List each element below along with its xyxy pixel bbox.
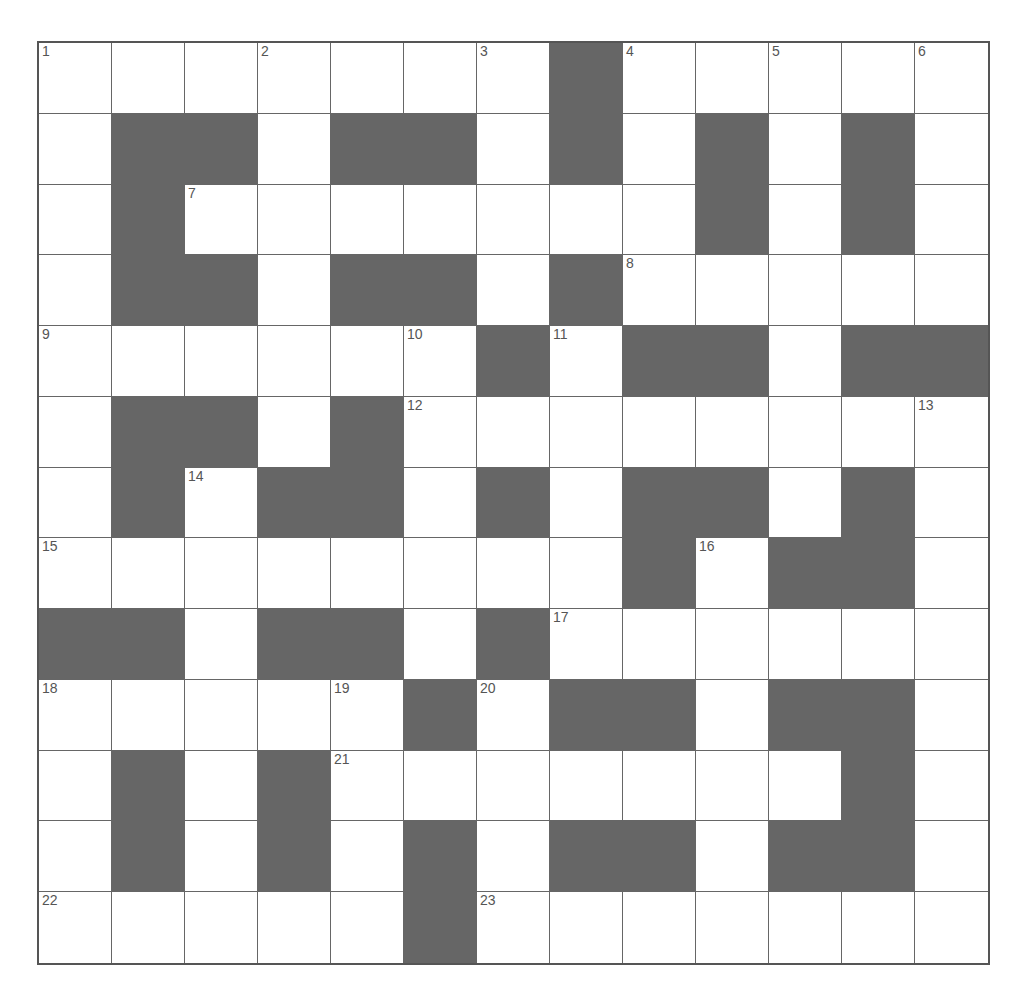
answer-cell[interactable] (842, 892, 915, 963)
answer-cell[interactable]: 19 (331, 680, 404, 751)
answer-cell[interactable] (258, 255, 331, 326)
answer-cell[interactable] (258, 185, 331, 256)
answer-cell[interactable]: 1 (39, 43, 112, 114)
answer-cell[interactable] (769, 255, 842, 326)
answer-cell[interactable]: 21 (331, 751, 404, 822)
answer-cell[interactable] (258, 397, 331, 468)
answer-cell[interactable] (769, 326, 842, 397)
answer-cell[interactable] (696, 892, 769, 963)
answer-cell[interactable] (769, 751, 842, 822)
answer-cell[interactable] (550, 892, 623, 963)
answer-cell[interactable] (39, 821, 112, 892)
answer-cell[interactable] (842, 609, 915, 680)
answer-cell[interactable] (769, 892, 842, 963)
answer-cell[interactable] (112, 680, 185, 751)
answer-cell[interactable] (185, 43, 258, 114)
answer-cell[interactable] (39, 468, 112, 539)
answer-cell[interactable] (404, 538, 477, 609)
answer-cell[interactable]: 8 (623, 255, 696, 326)
answer-cell[interactable] (258, 114, 331, 185)
answer-cell[interactable] (404, 185, 477, 256)
answer-cell[interactable]: 10 (404, 326, 477, 397)
answer-cell[interactable] (623, 751, 696, 822)
answer-cell[interactable] (769, 397, 842, 468)
answer-cell[interactable] (112, 43, 185, 114)
answer-cell[interactable] (915, 751, 988, 822)
answer-cell[interactable] (696, 751, 769, 822)
answer-cell[interactable] (404, 609, 477, 680)
answer-cell[interactable] (112, 892, 185, 963)
answer-cell[interactable] (477, 114, 550, 185)
answer-cell[interactable] (842, 397, 915, 468)
answer-cell[interactable] (769, 609, 842, 680)
answer-cell[interactable] (39, 397, 112, 468)
answer-cell[interactable]: 17 (550, 609, 623, 680)
answer-cell[interactable] (404, 468, 477, 539)
answer-cell[interactable] (550, 538, 623, 609)
answer-cell[interactable] (185, 680, 258, 751)
answer-cell[interactable] (331, 185, 404, 256)
answer-cell[interactable] (331, 43, 404, 114)
answer-cell[interactable] (915, 468, 988, 539)
answer-cell[interactable]: 4 (623, 43, 696, 114)
answer-cell[interactable]: 11 (550, 326, 623, 397)
answer-cell[interactable] (185, 821, 258, 892)
answer-cell[interactable]: 16 (696, 538, 769, 609)
answer-cell[interactable]: 22 (39, 892, 112, 963)
answer-cell[interactable]: 23 (477, 892, 550, 963)
answer-cell[interactable] (623, 185, 696, 256)
answer-cell[interactable] (696, 255, 769, 326)
answer-cell[interactable] (404, 43, 477, 114)
answer-cell[interactable] (696, 821, 769, 892)
answer-cell[interactable]: 13 (915, 397, 988, 468)
answer-cell[interactable]: 15 (39, 538, 112, 609)
answer-cell[interactable]: 18 (39, 680, 112, 751)
answer-cell[interactable] (623, 892, 696, 963)
answer-cell[interactable] (185, 609, 258, 680)
answer-cell[interactable] (915, 538, 988, 609)
answer-cell[interactable] (623, 397, 696, 468)
answer-cell[interactable] (258, 538, 331, 609)
answer-cell[interactable] (915, 821, 988, 892)
answer-cell[interactable]: 14 (185, 468, 258, 539)
answer-cell[interactable] (404, 751, 477, 822)
answer-cell[interactable] (769, 114, 842, 185)
answer-cell[interactable] (477, 538, 550, 609)
answer-cell[interactable] (185, 751, 258, 822)
answer-cell[interactable] (696, 609, 769, 680)
answer-cell[interactable] (550, 468, 623, 539)
answer-cell[interactable] (550, 751, 623, 822)
answer-cell[interactable] (185, 326, 258, 397)
answer-cell[interactable] (550, 397, 623, 468)
answer-cell[interactable] (842, 43, 915, 114)
answer-cell[interactable]: 5 (769, 43, 842, 114)
answer-cell[interactable] (331, 821, 404, 892)
answer-cell[interactable] (696, 43, 769, 114)
answer-cell[interactable] (477, 255, 550, 326)
answer-cell[interactable] (331, 538, 404, 609)
answer-cell[interactable] (915, 114, 988, 185)
answer-cell[interactable] (842, 255, 915, 326)
answer-cell[interactable] (39, 255, 112, 326)
answer-cell[interactable] (623, 114, 696, 185)
answer-cell[interactable] (915, 680, 988, 751)
answer-cell[interactable] (696, 680, 769, 751)
answer-cell[interactable] (477, 397, 550, 468)
answer-cell[interactable] (769, 185, 842, 256)
answer-cell[interactable] (258, 892, 331, 963)
answer-cell[interactable] (258, 326, 331, 397)
answer-cell[interactable] (477, 751, 550, 822)
answer-cell[interactable] (258, 680, 331, 751)
answer-cell[interactable] (331, 326, 404, 397)
answer-cell[interactable] (696, 397, 769, 468)
answer-cell[interactable] (39, 185, 112, 256)
answer-cell[interactable] (915, 892, 988, 963)
answer-cell[interactable]: 12 (404, 397, 477, 468)
answer-cell[interactable]: 2 (258, 43, 331, 114)
answer-cell[interactable] (915, 255, 988, 326)
answer-cell[interactable] (915, 609, 988, 680)
answer-cell[interactable] (112, 326, 185, 397)
answer-cell[interactable] (623, 609, 696, 680)
answer-cell[interactable] (769, 468, 842, 539)
answer-cell[interactable] (39, 751, 112, 822)
